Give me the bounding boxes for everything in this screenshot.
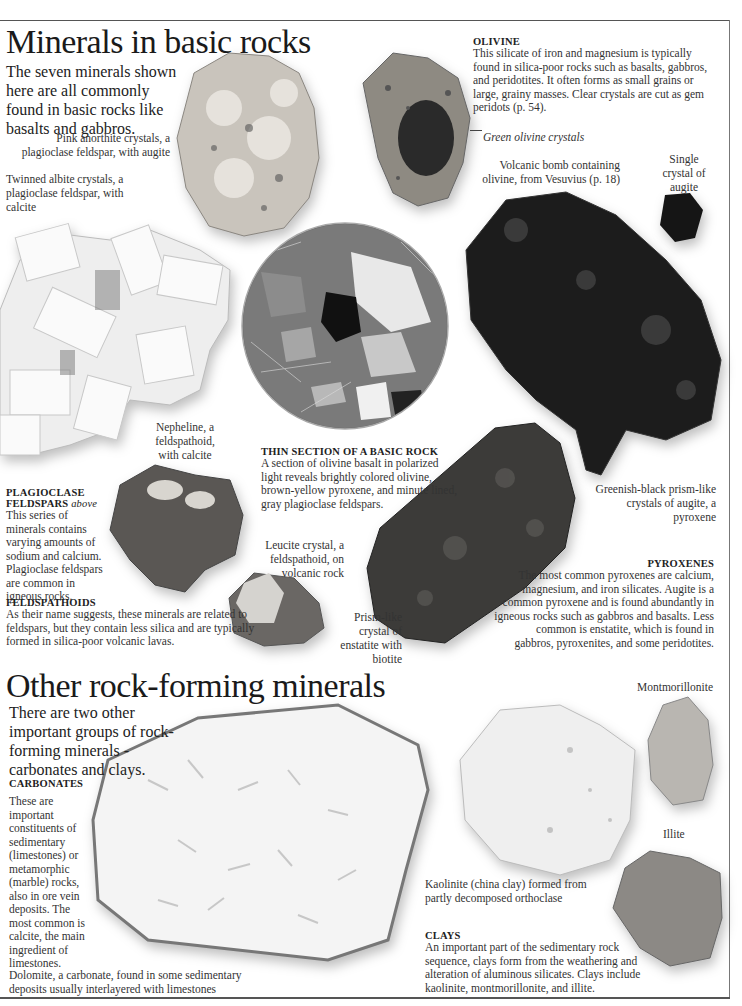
clays-box: CLAYS An important part of the sedimenta… <box>425 930 650 995</box>
thin-section-text: A section of olivine basalt in polarized… <box>261 457 461 511</box>
section2-title: Other rock-forming minerals <box>6 668 385 704</box>
frame-right-rule <box>729 20 730 998</box>
caption-anorthite: Pink anorthite crystals, a plagioclase f… <box>10 131 170 159</box>
single-augite-specimen-image <box>655 190 705 245</box>
caption-kaolinite: Kaolinite (china clay) formed from partl… <box>425 877 605 905</box>
thin-section-heading: THIN SECTION OF A BASIC ROCK <box>261 446 461 457</box>
olivine-heading: OLIVINE <box>473 36 713 47</box>
section1-title: Minerals in basic rocks <box>6 24 311 60</box>
caption-single-augite: Single crystal of augite <box>655 152 713 194</box>
plagioclase-box: PLAGIOCLASE FELDSPARS above This series … <box>6 487 106 604</box>
pyroxenes-box: PYROXENES The most common pyroxenes are … <box>494 558 714 650</box>
feldspathoids-heading: FELDSPATHOIDS <box>6 597 258 608</box>
carbonates-heading: CARBONATES <box>9 778 91 789</box>
caption-nepheline: Nepheline, a feldspathoid, with calcite <box>150 420 220 462</box>
caption-volcanic-bomb: Volcanic bomb containing olivine, from V… <box>480 158 620 186</box>
section1-intro: The seven minerals shown here are all co… <box>6 62 186 138</box>
plagioclase-text: This series of minerals contains varying… <box>6 509 106 604</box>
caption-dolomite: Dolomite, a carbonate, found in some sed… <box>9 968 269 996</box>
anorthite-specimen-image <box>174 48 322 238</box>
carbonates-box: CARBONATES These are important constitue… <box>9 778 91 971</box>
olivine-text: This silicate of iron and magnesium is t… <box>473 47 713 115</box>
pyroxenes-heading: PYROXENES <box>494 558 714 569</box>
caption-olivine-crystals: Green olivine crystals <box>483 130 584 144</box>
caption-montmorillonite: Montmorillonite <box>637 680 713 694</box>
caption-augite-prisms: Greenish-black prism-like crystals of au… <box>590 482 716 524</box>
caption-leucite: Leucite crystal, a feldspathoid, on volc… <box>258 538 344 580</box>
feldspathoids-box: FELDSPATHOIDS As their name suggests, th… <box>6 597 258 649</box>
clays-heading: CLAYS <box>425 930 650 941</box>
pyroxenes-text: The most common pyroxenes are calcium, m… <box>494 569 714 650</box>
carbonates-text: These are important constituents of sedi… <box>9 795 91 971</box>
thin-section-box: THIN SECTION OF A BASIC ROCK A section o… <box>261 446 461 511</box>
plagioclase-heading: PLAGIOCLASE FELDSPARS above <box>6 487 106 509</box>
olivine-specimen-image <box>358 48 478 208</box>
caption-illite: Illite <box>663 827 685 841</box>
feldspathoids-text: As their name suggests, these minerals a… <box>6 608 258 649</box>
montmorillonite-specimen-image <box>643 695 718 810</box>
clays-text: An important part of the sedimentary roc… <box>425 941 650 995</box>
frame-bottom-rule <box>0 997 730 999</box>
frame-top-rule <box>0 20 730 21</box>
caption-albite: Twinned albite crystals, a plagioclase f… <box>6 172 131 214</box>
section2-intro: There are two other important groups of … <box>9 703 199 779</box>
olivine-box: OLIVINE This silicate of iron and magnes… <box>473 36 713 115</box>
thin-section-image <box>241 222 449 430</box>
olivine-pointer-line <box>470 130 482 131</box>
caption-enstatite: Prism-like crystal of enstatite with bio… <box>330 610 402 666</box>
